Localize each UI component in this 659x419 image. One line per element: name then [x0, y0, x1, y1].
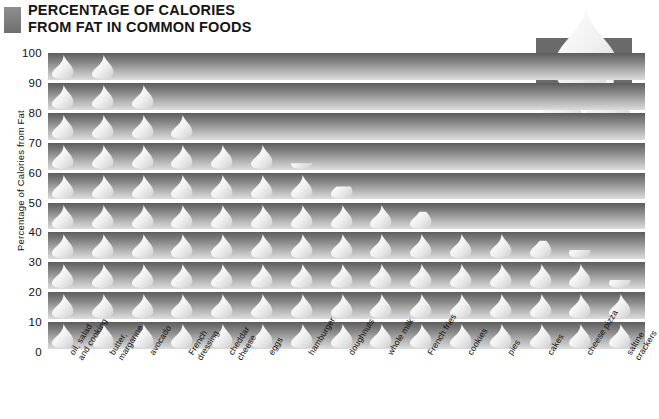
droplet-marker	[287, 143, 327, 170]
droplet-marker	[287, 292, 327, 319]
droplet-marker	[565, 232, 605, 259]
droplet-marker	[167, 203, 207, 230]
droplet-marker	[247, 143, 287, 170]
droplet-marker	[128, 143, 168, 170]
droplet-marker	[287, 173, 327, 200]
droplet-marker	[88, 143, 128, 170]
droplet-marker	[48, 292, 88, 319]
droplet-marker	[207, 232, 247, 259]
droplet-marker	[88, 262, 128, 289]
page-title: PERCENTAGE OF CALORIES FROM FAT IN COMMO…	[28, 2, 408, 36]
droplet-marker	[247, 203, 287, 230]
droplet-marker	[48, 173, 88, 200]
droplet-marker	[88, 203, 128, 230]
droplet-marker	[406, 232, 446, 259]
chart-band-80	[48, 113, 645, 140]
chart-band-100	[48, 53, 645, 80]
droplet-marker	[486, 292, 526, 319]
droplet-marker	[366, 262, 406, 289]
droplet-marker	[207, 143, 247, 170]
y-axis-title: Percentage of Calories from Fat	[15, 66, 26, 296]
droplet-marker	[128, 292, 168, 319]
droplet-marker	[167, 113, 207, 140]
droplet-marker	[128, 173, 168, 200]
droplet-marker	[366, 292, 406, 319]
droplet-marker	[128, 262, 168, 289]
chart-band-40	[48, 232, 645, 259]
droplet-marker	[167, 173, 207, 200]
droplet-marker	[207, 262, 247, 289]
droplet-marker	[565, 292, 605, 319]
droplet-marker	[167, 262, 207, 289]
y-axis-tick-10: 10	[2, 316, 42, 328]
droplet-marker	[48, 83, 88, 110]
droplet-marker	[366, 203, 406, 230]
droplet-marker	[486, 232, 526, 259]
droplet-marker	[247, 173, 287, 200]
droplet-marker	[88, 113, 128, 140]
droplet-marker	[247, 292, 287, 319]
chart-band-20	[48, 292, 645, 319]
droplet-marker	[526, 262, 566, 289]
x-axis-labels: oil, saladand cookingbutter,margarineavo…	[48, 352, 648, 419]
droplet-marker	[128, 232, 168, 259]
droplet-marker	[486, 262, 526, 289]
droplet-marker	[327, 173, 367, 200]
droplet-marker	[406, 203, 446, 230]
droplet-marker	[88, 232, 128, 259]
droplet-marker	[167, 232, 207, 259]
droplet-marker	[247, 232, 287, 259]
droplet-marker	[565, 262, 605, 289]
y-axis-tick-100: 100	[2, 47, 42, 59]
droplet-marker	[48, 203, 88, 230]
droplet-marker	[327, 262, 367, 289]
title-line-2: FROM FAT IN COMMON FOODS	[28, 19, 408, 36]
droplet-marker	[327, 203, 367, 230]
droplet-marker	[167, 143, 207, 170]
chart-band-90	[48, 83, 645, 110]
chart-band-30	[48, 262, 645, 289]
droplet-marker	[207, 173, 247, 200]
droplet-marker	[48, 113, 88, 140]
droplet-marker	[48, 232, 88, 259]
chart-band-60	[48, 173, 645, 200]
title-line-1: PERCENTAGE OF CALORIES	[28, 2, 408, 19]
droplet-marker	[128, 83, 168, 110]
droplet-marker	[327, 232, 367, 259]
droplet-marker	[88, 173, 128, 200]
droplet-marker	[167, 292, 207, 319]
droplet-marker	[48, 53, 88, 80]
droplet-marker	[88, 53, 128, 80]
droplet-marker	[366, 232, 406, 259]
chart-band-70	[48, 143, 645, 170]
droplet-marker	[207, 203, 247, 230]
droplet-marker	[526, 292, 566, 319]
droplet-marker	[446, 232, 486, 259]
chart-plot-area	[48, 53, 645, 349]
droplet-marker	[446, 262, 486, 289]
droplet-marker	[128, 113, 168, 140]
droplet-marker	[526, 232, 566, 259]
droplet-marker	[327, 292, 367, 319]
droplet-marker	[48, 143, 88, 170]
droplet-marker	[88, 83, 128, 110]
droplet-marker	[287, 232, 327, 259]
droplet-marker	[406, 262, 446, 289]
droplet-marker	[207, 292, 247, 319]
y-axis-tick-0: 0	[2, 346, 42, 358]
chart-title-block: PERCENTAGE OF CALORIES FROM FAT IN COMMO…	[0, 2, 420, 42]
droplet-marker	[406, 292, 446, 319]
droplet-marker	[287, 203, 327, 230]
droplet-marker	[287, 262, 327, 289]
chart-band-50	[48, 203, 645, 230]
droplet-marker	[247, 262, 287, 289]
droplet-marker	[605, 262, 645, 289]
droplet-marker	[48, 262, 88, 289]
droplet-marker	[128, 203, 168, 230]
